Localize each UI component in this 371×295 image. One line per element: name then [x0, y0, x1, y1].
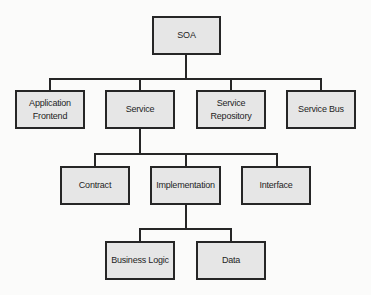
node-implementation: Implementation	[150, 166, 221, 205]
connector-to-interface	[276, 153, 278, 167]
node-soa: SOA	[152, 16, 221, 55]
node-service-bus: Service Bus	[286, 90, 356, 129]
node-label: Service	[123, 103, 158, 116]
node-label: Implementation	[153, 179, 218, 192]
node-label: SOA	[174, 29, 198, 42]
connector-to-data	[230, 228, 232, 242]
connector-level3-bus	[139, 228, 232, 230]
node-label: Service Bus	[295, 103, 347, 116]
connector-soa-down	[185, 54, 187, 80]
node-contract: Contract	[60, 166, 130, 205]
soa-tree-diagram: SOA ApplicationFrontend Service ServiceR…	[0, 0, 371, 295]
node-label: Business Logic	[108, 254, 172, 267]
node-label: ServiceRepository	[207, 97, 254, 123]
connector-to-implementation	[185, 153, 187, 167]
node-business-logic: Business Logic	[105, 241, 175, 280]
connector-level1-bus	[49, 78, 322, 80]
node-label: Contract	[76, 179, 114, 192]
node-interface: Interface	[241, 166, 311, 205]
connector-service-down	[139, 127, 141, 155]
node-data: Data	[196, 241, 266, 280]
node-application-frontend: ApplicationFrontend	[15, 90, 85, 129]
connector-to-contract	[94, 153, 96, 167]
node-label: Interface	[256, 179, 295, 192]
node-service-repository: ServiceRepository	[196, 90, 266, 129]
node-label: Data	[219, 254, 243, 267]
node-service: Service	[105, 90, 175, 129]
connector-implementation-down	[185, 204, 187, 230]
connector-to-business-logic	[139, 228, 141, 242]
node-label: ApplicationFrontend	[26, 97, 74, 123]
